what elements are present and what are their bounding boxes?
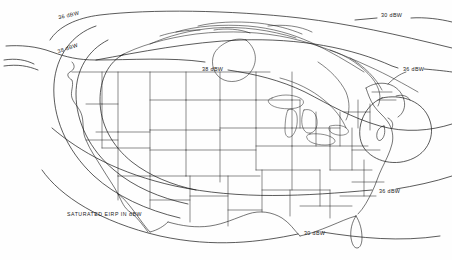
figure-caption: SATURATED EIRP IN dBW (67, 211, 142, 217)
contour-30-bottom-b (322, 232, 440, 239)
contour-nest-outer (54, 26, 180, 218)
map-canvas (0, 0, 452, 260)
contour-label-36-right: 36 dBW (403, 66, 424, 72)
contour-nest-mid (76, 40, 188, 204)
contour-36-lower (52, 128, 372, 196)
contour-30-top (355, 18, 377, 20)
contour-36-right-b (424, 69, 452, 72)
contour-label-36-lower-right: 36 dBW (379, 188, 400, 194)
contour-oval-right (360, 97, 432, 163)
eirp-footprint-map: 36 dBW 30 dBW 38 dBW 38 dBW 36 dBW 36 dB… (0, 0, 452, 260)
contour-label-30-bottom: 30 dBW (304, 230, 325, 236)
us-coastline (68, 62, 410, 248)
contour-30-bottom (42, 170, 298, 243)
contour-36-right (96, 40, 398, 68)
contour-30-top-b (411, 18, 452, 22)
contour-left-tick-b (4, 65, 38, 70)
great-lakes (268, 95, 348, 145)
contour-label-38-center: 38 dBW (202, 66, 223, 72)
contour-left-tick-a (4, 59, 34, 64)
canada-coastline (120, 22, 418, 128)
contour-nest-inner (100, 54, 196, 190)
contour-38-left (6, 46, 205, 62)
contour-label-30-top-right: 30 dBW (381, 12, 402, 18)
contour-36-lower-b (396, 176, 452, 189)
